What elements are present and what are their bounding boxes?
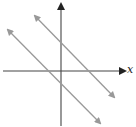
lower-left-line <box>8 30 100 123</box>
upper-right-line <box>35 16 114 97</box>
x-axis-label: x <box>127 64 133 75</box>
coordinate-plane <box>0 0 136 127</box>
